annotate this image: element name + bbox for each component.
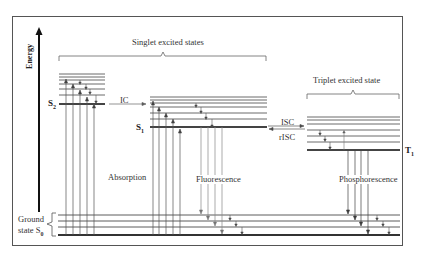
state-s2-label: S2: [48, 99, 56, 110]
singlet-group-label: Singlet excited states: [132, 38, 204, 47]
t1-relaxation-arrows: [319, 130, 331, 150]
energy-axis-label: Energy: [25, 41, 34, 73]
fluorescence-label: Fluorescence: [195, 175, 242, 184]
state-s1-label: S1: [136, 123, 144, 134]
t1-upconversion-arrow: [343, 131, 345, 151]
isc-label: ISC: [281, 118, 294, 127]
risc-arrow: [269, 128, 305, 131]
energy-axis-arrow: [36, 27, 43, 212]
ground-state-label: Ground state S0: [18, 214, 44, 240]
risc-label: rISC: [279, 133, 295, 142]
ground-relaxation-arrows-left: [229, 215, 243, 235]
singlet-bracket: [59, 52, 266, 61]
absorption-arrows-s2: [65, 79, 96, 235]
jablonski-diagram: [0, 0, 426, 263]
phosphorescence-label: Phosphorescence: [338, 175, 399, 184]
ground-brace: [47, 213, 56, 236]
ic-label: IC: [120, 96, 129, 105]
triplet-bracket: [307, 90, 399, 99]
state-t1-label: T1: [405, 146, 414, 157]
absorption-label: Absorption: [107, 173, 147, 182]
s1-levels: [150, 97, 267, 127]
triplet-group-label: Triplet excited state: [313, 76, 380, 85]
ground-relaxation-arrows-right: [376, 215, 390, 235]
